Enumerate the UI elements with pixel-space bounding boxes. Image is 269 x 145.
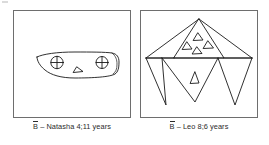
- caption-left-text: – Natasha 4;11 years: [38, 122, 111, 131]
- scan-artifact: [2, 1, 8, 3]
- bottom-small-triangle: [191, 72, 200, 84]
- natasha-drawing: [13, 10, 131, 118]
- top-small-triangle-2: [204, 41, 214, 49]
- blob-outline: [37, 52, 119, 78]
- downward-spike-right: [218, 58, 252, 105]
- left-wing-diagonal: [146, 19, 199, 58]
- right-wing-diagonal: [199, 19, 252, 58]
- small-triangle-center: [74, 67, 84, 73]
- caption-right-text: – Leo 8;6 years: [175, 122, 229, 131]
- downward-triangle-center: [162, 58, 218, 102]
- top-large-triangle: [174, 19, 224, 58]
- caption-right: B – Leo 8;6 years: [140, 121, 258, 132]
- panel-left: [13, 10, 131, 118]
- caption-left: B – Natasha 4;11 years: [13, 121, 131, 132]
- downward-spike-left: [146, 58, 166, 105]
- top-small-triangle-4: [193, 47, 203, 54]
- panel-right: [140, 10, 258, 118]
- top-small-triangle-1: [194, 33, 204, 41]
- figure-root: B – Natasha 4;11 years B – Leo 8;6 years: [0, 0, 269, 145]
- blob-inner-edge: [112, 53, 117, 74]
- leo-drawing: [140, 10, 258, 118]
